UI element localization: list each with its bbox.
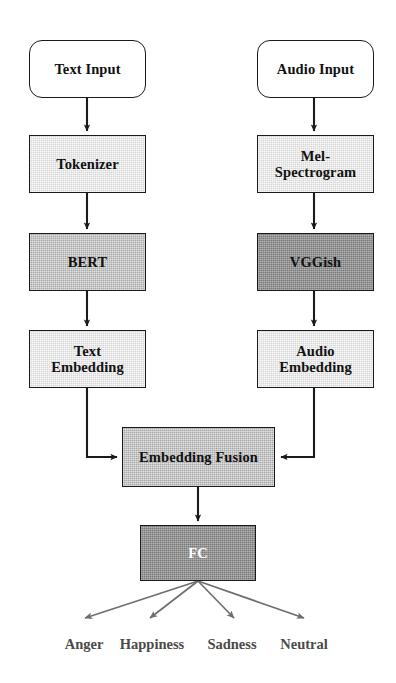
node-text-input[interactable]: Text Input — [29, 40, 146, 98]
node-text-embedding[interactable]: Text Embedding — [29, 330, 146, 388]
flowchart-diagram: Text Input Tokenizer BERT Text Embedding… — [0, 0, 396, 683]
node-audio-embedding[interactable]: Audio Embedding — [257, 330, 374, 388]
node-embedding-fusion-label: Embedding Fusion — [139, 449, 258, 465]
node-tokenizer[interactable]: Tokenizer — [29, 135, 146, 193]
output-label-happiness: Happiness — [106, 636, 198, 653]
node-tokenizer-label: Tokenizer — [56, 156, 118, 172]
node-fc-label: FC — [188, 545, 208, 561]
edge-fc-to-sadness — [198, 581, 234, 618]
node-fc[interactable]: FC — [140, 525, 256, 581]
node-audio-input[interactable]: Audio Input — [257, 40, 374, 98]
node-bert[interactable]: BERT — [29, 233, 146, 291]
edge-fc-to-anger — [85, 581, 198, 618]
node-audio-input-label: Audio Input — [277, 61, 354, 77]
edge-text-embedding-to-fusion — [87, 388, 117, 457]
edge-fc-to-happiness — [150, 581, 198, 618]
node-mel-spectrogram[interactable]: Mel- Spectrogram — [257, 135, 374, 193]
node-vggish-label: VGGish — [290, 254, 341, 270]
edge-audio-embedding-to-fusion — [281, 388, 314, 457]
output-label-neutral: Neutral — [258, 636, 350, 653]
node-bert-label: BERT — [68, 254, 107, 270]
node-text-embedding-label: Text Embedding — [51, 343, 124, 375]
node-audio-embedding-label: Audio Embedding — [279, 343, 352, 375]
edge-fc-to-neutral — [198, 581, 304, 618]
node-mel-spectrogram-label: Mel- Spectrogram — [275, 148, 356, 180]
node-embedding-fusion[interactable]: Embedding Fusion — [122, 427, 275, 487]
node-text-input-label: Text Input — [54, 61, 120, 77]
node-vggish[interactable]: VGGish — [257, 233, 374, 291]
